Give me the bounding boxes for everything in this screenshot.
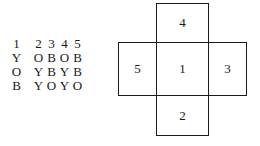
cube-net: 4 5 1 3 2	[0, 0, 260, 146]
face-top: 4	[156, 3, 209, 43]
face-center: 1	[156, 42, 209, 96]
face-bottom: 2	[156, 95, 209, 136]
face-left: 5	[118, 42, 157, 96]
face-right: 3	[208, 42, 247, 96]
